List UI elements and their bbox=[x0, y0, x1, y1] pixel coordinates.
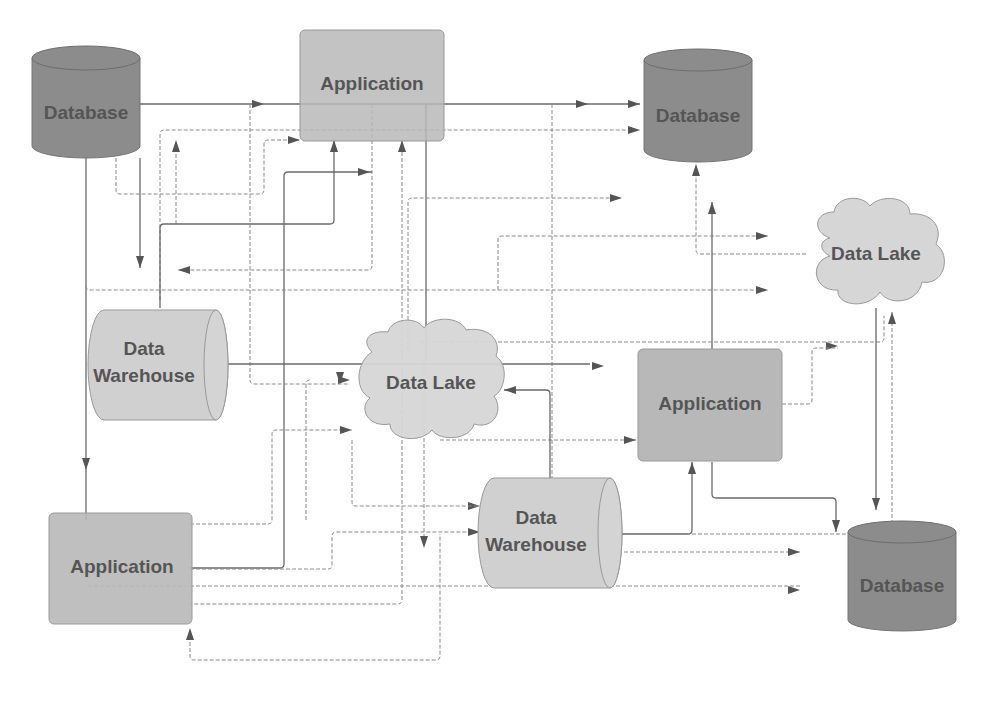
application-node-top[interactable]: Application bbox=[300, 30, 444, 141]
connector bbox=[620, 462, 692, 534]
node-label-line1: Data bbox=[123, 338, 165, 359]
database-node-top-right[interactable]: Database bbox=[644, 49, 752, 162]
arrow-right-icon bbox=[610, 194, 622, 202]
connector bbox=[782, 348, 838, 404]
arrow-right-icon bbox=[756, 232, 768, 240]
architecture-diagram: Database Application Database Data Lake … bbox=[0, 0, 995, 702]
arrow-up-icon bbox=[172, 140, 180, 152]
connector bbox=[160, 140, 334, 308]
data-warehouse-node-left[interactable]: Data Warehouse bbox=[88, 310, 228, 420]
database-node-bottom-right[interactable]: Database bbox=[848, 521, 956, 631]
arrow-right-icon bbox=[592, 362, 604, 370]
arrow-down-icon bbox=[82, 458, 90, 470]
arrow-up-icon bbox=[688, 462, 696, 474]
arrow-up-icon bbox=[330, 140, 338, 152]
arrow-right-icon bbox=[788, 548, 800, 556]
arrow-up-icon bbox=[186, 628, 194, 640]
arrow-up-icon bbox=[398, 140, 406, 152]
node-label: Database bbox=[656, 105, 741, 126]
arrow-right-icon bbox=[624, 436, 636, 444]
arrow-right-icon bbox=[628, 126, 640, 134]
node-label: Data Lake bbox=[831, 243, 921, 264]
connector bbox=[160, 130, 640, 300]
database-node-top-left[interactable]: Database bbox=[32, 46, 140, 158]
application-node-right[interactable]: Application bbox=[638, 349, 782, 461]
node-label: Application bbox=[320, 73, 423, 94]
arrow-right-icon bbox=[756, 286, 768, 294]
arrow-right-icon bbox=[628, 100, 640, 108]
arrow-down-icon bbox=[420, 536, 428, 548]
arrow-right-icon bbox=[788, 586, 800, 594]
connector bbox=[352, 440, 480, 506]
data-warehouse-node-bottom[interactable]: Data Warehouse bbox=[478, 478, 622, 588]
node-label: Application bbox=[658, 393, 761, 414]
arrow-right-icon bbox=[826, 342, 838, 350]
arrow-down-icon bbox=[872, 498, 880, 510]
connector bbox=[504, 390, 550, 478]
connector bbox=[86, 286, 768, 290]
data-lake-node-center[interactable]: Data Lake bbox=[359, 319, 504, 438]
connector bbox=[306, 380, 310, 520]
arrow-up-icon bbox=[692, 164, 700, 176]
node-label: Database bbox=[860, 575, 945, 596]
arrow-down-icon bbox=[136, 256, 144, 268]
arrow-left-icon bbox=[504, 386, 516, 394]
node-label: Data Lake bbox=[386, 372, 476, 393]
application-node-bottom-left[interactable]: Application bbox=[49, 513, 192, 624]
connector bbox=[190, 532, 480, 569]
arrow-right-icon bbox=[252, 100, 264, 108]
arrow-right-icon bbox=[288, 136, 300, 144]
arrow-right-icon bbox=[340, 426, 352, 434]
node-label: Application bbox=[70, 556, 173, 577]
arrow-down-icon bbox=[832, 520, 840, 532]
node-label-line2: Warehouse bbox=[485, 534, 587, 555]
connector bbox=[116, 140, 300, 194]
connector bbox=[498, 236, 768, 290]
node-label-line2: Warehouse bbox=[93, 365, 195, 386]
arrow-right-icon bbox=[576, 100, 588, 108]
arrow-left-icon bbox=[178, 266, 190, 274]
data-lake-node-right[interactable]: Data Lake bbox=[816, 198, 944, 304]
connector bbox=[250, 380, 350, 384]
arrow-right-icon bbox=[358, 168, 370, 176]
arrow-up-icon bbox=[888, 312, 896, 324]
arrow-up-icon bbox=[708, 202, 716, 214]
connector bbox=[190, 430, 352, 524]
connector bbox=[712, 462, 836, 532]
node-label: Database bbox=[44, 102, 129, 123]
node-label-line1: Data bbox=[515, 507, 557, 528]
